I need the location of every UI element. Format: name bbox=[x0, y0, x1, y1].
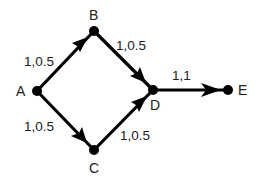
edge-b-d: 1,0.5 bbox=[94, 31, 153, 90]
node-a: A bbox=[16, 83, 42, 99]
node-label-e: E bbox=[238, 82, 247, 98]
edge-a-b: 1,0.5 bbox=[24, 31, 94, 91]
node-b: B bbox=[89, 7, 99, 36]
node-label-c: C bbox=[89, 160, 99, 176]
edge-d-e: 1,1 bbox=[153, 68, 228, 97]
node-label-b: B bbox=[89, 7, 98, 23]
edge-label-c-d: 1,0.5 bbox=[120, 128, 150, 143]
edge-label-d-e: 1,1 bbox=[172, 68, 191, 83]
node-e: E bbox=[223, 82, 247, 98]
edge-label-b-d: 1,0.5 bbox=[116, 38, 146, 53]
edge-label-a-b: 1,0.5 bbox=[24, 54, 54, 69]
node-c: C bbox=[89, 145, 99, 176]
node-label-a: A bbox=[16, 83, 26, 99]
node-label-d: D bbox=[150, 97, 160, 113]
directed-graph-diagram: 1,0.5 1,0.5 1,0.5 1,0.5 1,1 A B C D bbox=[0, 0, 260, 183]
edge-label-a-c: 1,0.5 bbox=[24, 119, 54, 134]
edge-c-d: 1,0.5 bbox=[94, 90, 153, 150]
edge-a-c: 1,0.5 bbox=[24, 91, 94, 150]
